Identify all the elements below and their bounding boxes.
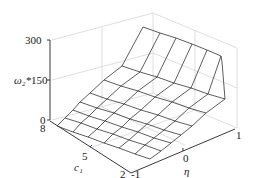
c1-tick-8: 8 bbox=[40, 122, 46, 134]
surface-plot-figure: 300 150 0 ω₂* 8 5 2 c₁ -1 0 1 η bbox=[0, 0, 255, 178]
eta-tick-0: 0 bbox=[183, 152, 189, 164]
surface-mesh bbox=[57, 27, 225, 159]
surface-plot: 300 150 0 ω₂* 8 5 2 c₁ -1 0 1 η bbox=[0, 0, 255, 178]
z-tick-150: 150 bbox=[31, 74, 48, 86]
eta-tick-1: 1 bbox=[236, 129, 242, 141]
axis-box-grid bbox=[52, 13, 237, 148]
z-axis-title: ω₂* bbox=[14, 74, 32, 86]
c1-axis bbox=[50, 121, 131, 173]
eta-tick-minus1: -1 bbox=[131, 168, 140, 178]
eta-axis-title: η bbox=[184, 165, 189, 177]
z-tick-300: 300 bbox=[25, 34, 42, 46]
c1-axis-title: c₁ bbox=[74, 161, 83, 173]
c1-tick-5: 5 bbox=[82, 150, 88, 162]
c1-tick-2: 2 bbox=[120, 168, 126, 178]
